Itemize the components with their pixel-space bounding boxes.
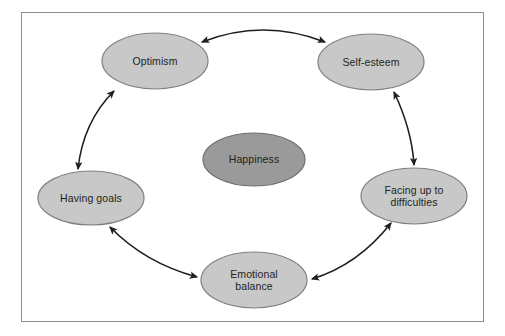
node-happiness[interactable] xyxy=(203,133,305,186)
diagram-canvas xyxy=(0,0,505,336)
connector-having-goals-optimism xyxy=(78,91,114,169)
node-having-goals[interactable] xyxy=(38,171,144,225)
connector-self-esteem-facing-up xyxy=(394,92,414,165)
connector-facing-up-emotional-balance xyxy=(312,223,391,279)
node-emotional-balance[interactable] xyxy=(201,252,307,308)
connector-emotional-balance-having-goals xyxy=(110,227,197,277)
node-facing-up-to-difficulties[interactable] xyxy=(361,168,467,224)
node-self-esteem[interactable] xyxy=(318,34,424,90)
node-optimism[interactable] xyxy=(102,33,208,89)
connector-optimism-self-esteem xyxy=(202,30,325,42)
happiness-cycle-diagram: Optimism Self-esteem Facing up to diffic… xyxy=(0,0,505,336)
